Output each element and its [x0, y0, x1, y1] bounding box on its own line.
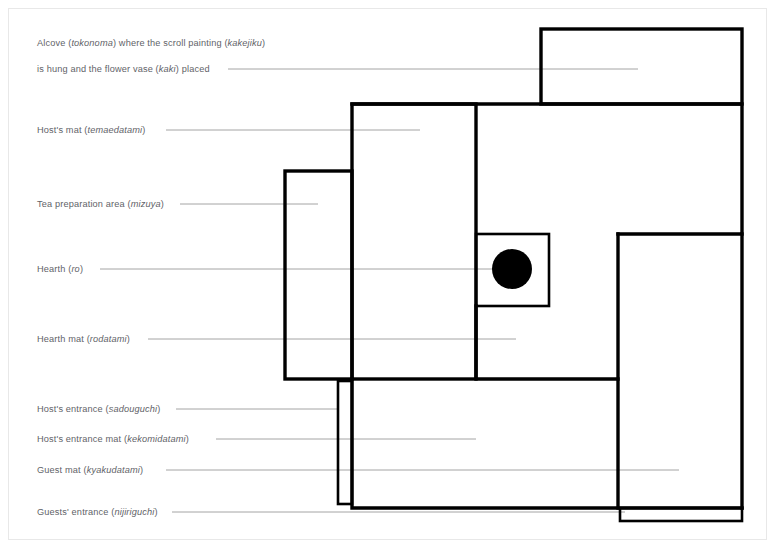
label-tokonoma-line1: Alcove (tokonoma) where the scroll paint… [37, 38, 265, 48]
room-tokonoma [541, 29, 742, 104]
label-temaedatami: Host's mat (temaedatami) [37, 125, 146, 135]
label-kyakudatami: Guest mat (kyakudatami) [37, 465, 143, 475]
hearth-ro-circle [492, 249, 532, 289]
room-rodatami-outline [476, 306, 618, 379]
label-sadouguchi: Host's entrance (sadouguchi) [37, 404, 160, 414]
room-kyakudatami-outline [352, 379, 742, 508]
label-ro: Hearth (ro) [37, 264, 83, 274]
label-mizuya: Tea preparation area (mizuya) [37, 199, 164, 209]
label-kekomidatami: Host's entrance mat (kekomidatami) [37, 434, 189, 444]
label-nijiriguchi: Guests' entrance (nijiriguchi) [37, 507, 158, 517]
label-tokonoma-line2: is hung and the flower vase (kaki) place… [37, 64, 210, 74]
room-mizuya [285, 171, 352, 379]
floor-plan-canvas: Alcove (tokonoma) where the scroll paint… [0, 0, 775, 548]
room-main-upper-outline [352, 104, 742, 234]
page-border [9, 9, 767, 540]
plan-walls [285, 29, 742, 521]
label-rodatami: Hearth mat (rodatami) [37, 334, 130, 344]
plan-labels: Alcove (tokonoma) where the scroll paint… [37, 38, 265, 517]
leader-lines [100, 69, 679, 512]
room-temaedatami [352, 104, 476, 379]
floor-plan-diagram: Alcove (tokonoma) where the scroll paint… [0, 0, 775, 548]
opening-nijiriguchi [620, 508, 742, 521]
opening-sadouguchi [338, 381, 352, 504]
